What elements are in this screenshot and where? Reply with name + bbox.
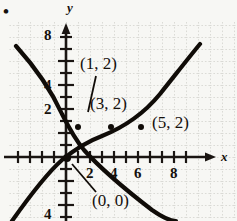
x-tick-label-4: 4 — [110, 166, 118, 181]
y-tick-label-negative-4: 4 — [44, 207, 52, 221]
x-axis-label: x — [221, 150, 228, 163]
data-point-5-2 — [138, 124, 144, 130]
y-axis-label: y — [67, 1, 73, 14]
figure-container: • y x 8 4 2 4 2 4 6 8 (1, 2) (3, 2) (5, … — [0, 0, 237, 221]
data-point-0-0 — [63, 154, 71, 162]
point-label-3-2: (3, 2) — [90, 95, 127, 112]
grid-lines — [8, 22, 236, 219]
x-tick-label-6: 6 — [134, 166, 142, 181]
x-tick-label-2: 2 — [86, 166, 94, 181]
data-point-1-2 — [75, 124, 81, 130]
y-tick-label-8: 8 — [44, 28, 52, 43]
x-tick-label-8: 8 — [170, 166, 178, 181]
problem-marker: • — [3, 3, 9, 20]
point-label-5-2: (5, 2) — [152, 114, 189, 131]
point-label-0-0: (0, 0) — [92, 192, 129, 209]
y-tick-label-2: 2 — [44, 102, 52, 117]
data-point-3-2 — [108, 124, 114, 130]
point-label-1-2: (1, 2) — [80, 55, 117, 72]
y-tick-label-4: 4 — [44, 78, 52, 93]
